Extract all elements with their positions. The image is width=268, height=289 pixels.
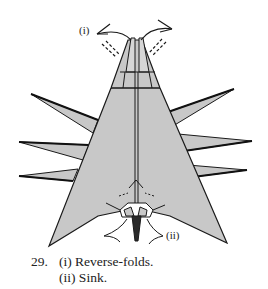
fold-marker-ii: (ii) [166,229,179,241]
sink-arrow-right [147,219,163,244]
left-fold-arrow [97,32,131,40]
instruction-sink: (ii) Sink. [59,270,107,285]
sink-arrow-left [104,219,127,242]
step-number: 29. [31,254,59,270]
origami-diagram [0,0,268,289]
caption-line-2: (ii) Sink. [31,270,153,286]
caption-line-1: 29.(i) Reverse-folds. [31,254,153,270]
left-spike-upper [31,94,98,133]
fold-marker-i: (i) [79,24,89,36]
step-caption: 29.(i) Reverse-folds. (ii) Sink. [31,254,153,286]
instruction-reverse-folds: (i) Reverse-folds. [59,254,153,269]
